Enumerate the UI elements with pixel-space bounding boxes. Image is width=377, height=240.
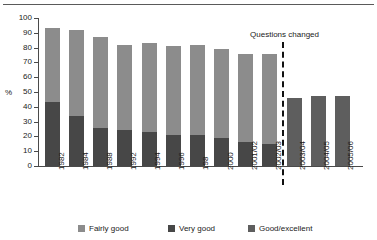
y-axis-tick-label: 90 (23, 27, 32, 38)
chart-figure: % 0102030405060708090100 Questions chang… (0, 0, 377, 240)
bar-segment (142, 43, 157, 132)
y-axis-tick-label: 50 (23, 86, 32, 97)
legend-item[interactable]: Very good (168, 224, 215, 233)
y-axis-line (38, 18, 39, 167)
legend-item-label: Very good (179, 224, 215, 233)
y-axis-tick-label: 60 (23, 71, 32, 82)
bar[interactable] (69, 30, 84, 166)
x-axis-tick-label: 1988 (105, 152, 114, 170)
bar-segment (166, 46, 181, 135)
legend-swatch-icon (168, 225, 175, 232)
legend-item-label: Good/excellent (259, 224, 312, 233)
questions-changed-label: Questions changed (250, 30, 319, 39)
legend-swatch-icon (248, 225, 255, 232)
bar[interactable] (214, 49, 229, 166)
bar-segment (69, 30, 84, 116)
x-axis-tick-label: 2000 (226, 152, 235, 170)
x-axis-tick-label: 2001/02 (250, 141, 259, 170)
bar[interactable] (45, 28, 60, 166)
bar-segment (117, 45, 132, 131)
y-axis-tick-label: 10 (23, 145, 32, 156)
y-axis-tick-label: 0 (28, 160, 32, 171)
x-axis-tick-label: 1982 (57, 152, 66, 170)
bar[interactable] (117, 45, 132, 166)
y-axis-tick-label: 100 (19, 12, 32, 23)
x-axis-tick-label: 1984 (81, 152, 90, 170)
y-axis-tick-label: 30 (23, 116, 32, 127)
y-axis-tick-mark (34, 122, 38, 123)
x-axis-tick-label: 1994 (153, 152, 162, 170)
legend-item[interactable]: Fairly good (78, 224, 129, 233)
x-axis-tick-label: 2005/06 (346, 141, 355, 170)
legend-item[interactable]: Good/excellent (248, 224, 312, 233)
bar-segment (214, 49, 229, 138)
y-axis-title: % (5, 88, 12, 97)
legend-swatch-icon (78, 225, 85, 232)
y-axis-tick-mark (34, 62, 38, 63)
y-axis-tick-mark (34, 92, 38, 93)
bar[interactable] (93, 37, 108, 166)
x-axis-tick-label: 2004/05 (322, 141, 331, 170)
top-divider-rule (3, 4, 374, 5)
x-axis-tick-label: 2003/04 (298, 141, 307, 170)
y-axis-tick-label: 70 (23, 56, 32, 67)
y-axis-tick-label: 40 (23, 101, 32, 112)
x-axis-tick-label: 2002/03 (274, 141, 283, 170)
chart-legend: Fairly goodVery goodGood/excellent (0, 224, 377, 238)
y-axis-tick-mark (34, 18, 38, 19)
bar-segment (45, 28, 60, 102)
y-axis-tick-mark (34, 33, 38, 34)
y-axis-tick-mark (34, 151, 38, 152)
y-axis-tick-mark (34, 48, 38, 49)
y-axis-tick-mark (34, 166, 38, 167)
bar[interactable] (190, 45, 205, 166)
x-axis-tick-label: 198 (201, 157, 210, 170)
plot-area: 0102030405060708090100 Questions changed (38, 18, 363, 167)
bar[interactable] (142, 43, 157, 166)
bar[interactable] (166, 46, 181, 166)
y-axis-tick-mark (34, 107, 38, 108)
y-axis-tick-mark (34, 136, 38, 137)
y-axis-tick-label: 20 (23, 130, 32, 141)
y-axis-tick-label: 80 (23, 42, 32, 53)
bar-segment (262, 54, 277, 144)
x-axis-tick-label: 1992 (129, 152, 138, 170)
bar-segment (238, 54, 253, 143)
x-axis-tick-label: 1996 (177, 152, 186, 170)
y-axis-tick-mark (34, 77, 38, 78)
bar-segment (190, 45, 205, 135)
legend-item-label: Fairly good (89, 224, 129, 233)
bar-segment (93, 37, 108, 127)
